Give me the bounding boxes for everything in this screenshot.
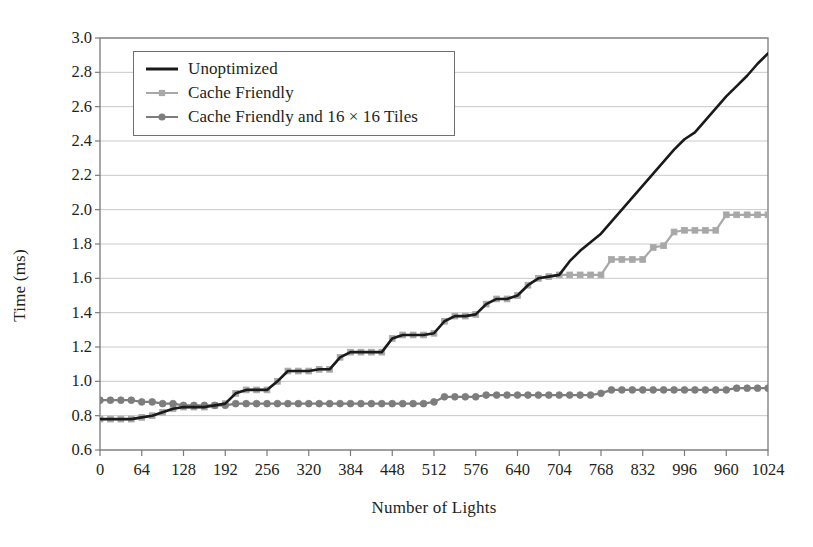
x-axis-tick-labels: 0641281922563203844485125766407047688329… [0,462,813,488]
series-marker [305,400,312,407]
series-marker [588,272,594,278]
x-axis-tick-label: 0 [96,462,104,479]
series-marker [671,387,678,394]
legend-entry: Unoptimized [143,57,445,81]
x-axis-tick-label: 64 [134,462,151,479]
series-marker [629,387,636,394]
series-marker [138,399,145,406]
series-marker [253,400,260,407]
x-axis-tick-label: 960 [714,462,739,479]
x-axis-tick-label: 640 [505,462,530,479]
series-marker [295,400,302,407]
series-marker [598,272,604,278]
series-marker [264,400,271,407]
series-marker [504,392,511,399]
legend-entry: Cache Friendly [143,81,445,105]
legend-entry-label: Unoptimized [188,59,278,79]
series-marker [368,400,375,407]
series-marker [337,400,344,407]
series-marker [650,245,656,251]
x-axis-tick-label: 1024 [752,462,785,479]
series-marker [556,392,563,399]
series-marker [159,400,166,407]
x-axis-tick-label: 704 [547,462,572,479]
x-axis-tick-label: 996 [672,462,697,479]
series-marker [149,399,156,406]
series-marker [702,227,708,233]
series-marker [170,400,177,407]
series-marker [765,212,771,218]
legend-entry-label: Cache Friendly [188,83,294,103]
series-marker [650,387,657,394]
series-marker [431,399,438,406]
series-marker [545,392,552,399]
series-marker [358,400,365,407]
series-marker [577,392,584,399]
series-marker [493,392,500,399]
series-marker [514,392,521,399]
series-marker [232,400,239,407]
legend-swatch-marker [158,113,165,120]
series-marker [640,257,646,263]
series-marker [274,400,281,407]
series-marker [755,212,761,218]
series-marker [754,385,761,392]
series-marker [712,387,719,394]
legend-swatch-graphic [143,60,181,78]
x-axis-tick-label: 768 [589,462,614,479]
legend-swatch-graphic [143,108,181,126]
series-marker [723,387,730,394]
series-marker [598,390,605,397]
legend-swatch-icon [143,60,181,78]
series-marker [399,400,406,407]
series-marker [660,387,667,394]
series-marker [661,243,667,249]
x-axis-tick-label: 128 [171,462,196,479]
series-marker [765,385,772,392]
series-marker [472,393,479,400]
series-marker [629,257,635,263]
series-marker [713,227,719,233]
series-marker [420,400,427,407]
x-axis-tick-label: 512 [422,462,447,479]
legend-swatch-marker [159,90,165,96]
series-marker [243,400,250,407]
x-axis-tick-label: 448 [380,462,405,479]
series-marker [587,392,594,399]
series-marker [566,392,573,399]
x-axis-tick-label: 384 [338,462,363,479]
series-marker [577,272,583,278]
chart-figure: Time (ms) 3.02.82.62.42.22.01.81.61.41.2… [0,0,813,547]
series-marker [347,400,354,407]
series-marker [326,400,333,407]
x-axis-tick-label: 256 [255,462,280,479]
series-marker [619,257,625,263]
x-axis-title: Number of Lights [100,498,768,518]
x-axis-tick-label: 832 [630,462,655,479]
series-marker [671,229,677,235]
series-marker [410,400,417,407]
series-marker [389,400,396,407]
series-marker [462,393,469,400]
series-marker [639,387,646,394]
series-marker [107,397,114,404]
legend-entry: Cache Friendly and 16 × 16 Tiles [143,105,445,129]
series-marker [681,387,688,394]
series-marker [378,400,385,407]
series-marker [316,400,323,407]
series-marker [535,392,542,399]
series-marker [682,227,688,233]
x-axis-tick-label: 576 [463,462,488,479]
series-marker [567,272,573,278]
series-marker [284,400,291,407]
series-marker [733,385,740,392]
legend-swatch-graphic [143,84,181,102]
x-axis-tick-label: 192 [213,462,238,479]
x-axis-tick-label: 320 [296,462,321,479]
series-marker [618,387,625,394]
series-marker [525,392,532,399]
series-marker [451,393,458,400]
y-axis-ticks [95,38,100,450]
series-marker [117,397,124,404]
legend-swatch-icon [143,108,181,126]
